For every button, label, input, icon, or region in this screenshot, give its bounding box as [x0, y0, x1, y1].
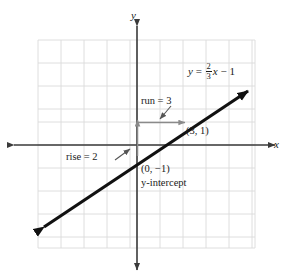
x-axis-label: x: [274, 139, 279, 150]
y-axis-label: y: [131, 10, 136, 21]
point-3-1-label: (3, 1): [186, 126, 209, 137]
rise-label: rise = 2: [66, 152, 98, 163]
run-label: run = 3: [141, 96, 171, 107]
coordinate-plane: [0, 0, 290, 278]
rise-pointer-arrow: [115, 149, 130, 160]
run-pointer-arrow: [160, 106, 171, 119]
equation-tail: − 1: [221, 65, 235, 77]
equation-variable: x: [213, 65, 218, 77]
equation-lhs: y: [188, 65, 193, 77]
equation-equals: =: [196, 65, 202, 77]
graph-figure: y x y = 2 3 x − 1 run = 3 rise = 2 (3, 1…: [0, 0, 290, 278]
y-intercept-label: y-intercept: [141, 178, 186, 189]
equation-label: y = 2 3 x − 1: [188, 62, 235, 81]
equation-denominator: 3: [206, 71, 212, 81]
equation-numerator: 2: [206, 62, 212, 71]
equation-fraction: 2 3: [206, 62, 212, 81]
point-0-neg1-label: (0, −1): [141, 164, 170, 175]
